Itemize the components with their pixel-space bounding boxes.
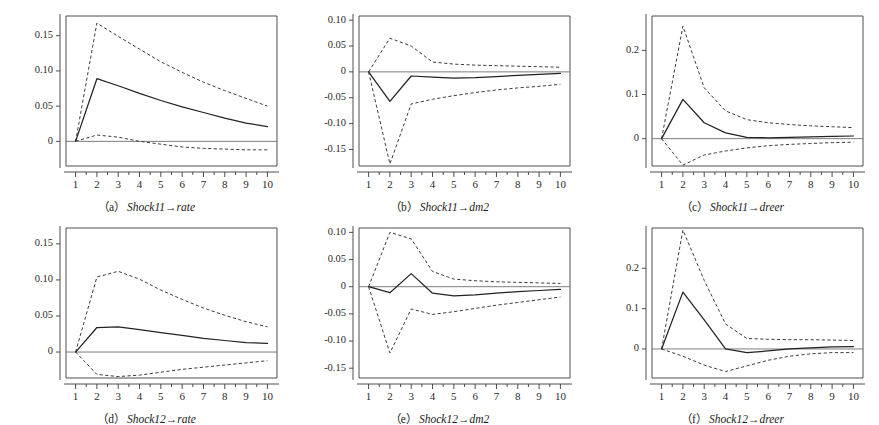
confidence-band-line	[76, 135, 268, 150]
y-axis-ticks: 00.10.2	[626, 44, 646, 143]
x-tick-label: 6	[765, 178, 771, 190]
y-axis-ticks: 00.050.100.15	[35, 29, 60, 146]
y-tick-label: -0.05	[324, 307, 346, 318]
x-axis-ticks: 12345678910	[366, 384, 567, 402]
y-tick-label: -0.10	[324, 117, 346, 128]
x-tick-label: 6	[179, 178, 185, 190]
y-tick-label: 0.10	[35, 273, 53, 284]
x-tick-label: 1	[366, 390, 372, 402]
confidence-band-line	[369, 232, 561, 286]
impulse-response-figure: 1234567891000.050.100.15（a）Shock11→rate1…	[0, 0, 879, 425]
x-tick-label: 4	[430, 390, 436, 402]
x-axis-ticks: 12345678910	[73, 172, 274, 190]
impulse-response-line	[369, 72, 561, 101]
x-tick-label: 2	[94, 390, 100, 402]
panel-caption-letter: （e）	[390, 413, 417, 425]
plot-frame	[359, 228, 570, 378]
x-tick-label: 6	[472, 178, 478, 190]
y-axis-ticks: -0.15-0.10-0.0500.050.10	[324, 14, 353, 154]
series-group	[662, 26, 854, 165]
panel-caption-text: Shock12→rate	[127, 413, 196, 425]
x-tick-label: 1	[366, 178, 372, 190]
y-tick-label: -0.15	[324, 362, 346, 373]
series-group	[369, 38, 561, 164]
x-tick-label: 3	[701, 178, 707, 190]
x-tick-label: 10	[262, 390, 274, 402]
x-tick-label: 4	[137, 390, 143, 402]
x-tick-label: 9	[243, 178, 249, 190]
x-tick-label: 7	[201, 390, 207, 402]
x-tick-label: 5	[158, 390, 164, 402]
impulse-response-line	[369, 274, 561, 296]
x-tick-label: 5	[744, 390, 750, 402]
y-tick-label: 0	[341, 65, 346, 76]
y-tick-label: 0.05	[328, 253, 346, 264]
x-tick-label: 8	[222, 178, 228, 190]
plot-frame	[66, 16, 277, 166]
y-tick-label: 0.2	[626, 262, 639, 273]
y-tick-label: 0.2	[626, 44, 639, 55]
confidence-band-line	[369, 287, 561, 353]
y-tick-label: 0	[634, 132, 639, 143]
panel-caption-letter: （f）	[681, 413, 707, 425]
x-tick-label: 1	[659, 178, 665, 190]
x-tick-label: 6	[472, 390, 478, 402]
x-tick-label: 2	[387, 178, 393, 190]
panel-caption-letter: （d）	[97, 413, 125, 425]
x-tick-label: 7	[201, 178, 207, 190]
y-tick-label: 0.15	[35, 237, 53, 248]
panel-caption: （d）Shock12→rate	[0, 410, 293, 425]
x-tick-label: 5	[451, 178, 457, 190]
x-tick-label: 7	[787, 178, 793, 190]
x-tick-label: 7	[787, 390, 793, 402]
panel-caption: （e）Shock12→dm2	[293, 410, 586, 425]
x-tick-label: 9	[829, 390, 835, 402]
y-tick-label: 0.05	[35, 100, 53, 111]
x-tick-label: 3	[408, 390, 414, 402]
x-tick-label: 9	[243, 390, 249, 402]
y-tick-label: 0.15	[35, 29, 53, 40]
x-tick-label: 8	[808, 390, 814, 402]
series-group	[369, 232, 561, 353]
chart-panel-d: 1234567891000.050.100.15（d）Shock12→rate	[0, 212, 293, 425]
confidence-band-line	[369, 72, 561, 164]
x-tick-label: 10	[555, 178, 567, 190]
series-group	[662, 230, 854, 372]
x-tick-label: 9	[536, 178, 542, 190]
y-tick-label: 0	[48, 135, 53, 146]
plot-frame	[652, 16, 863, 166]
x-axis-ticks: 12345678910	[73, 384, 274, 402]
confidence-band-line	[662, 230, 854, 349]
chart-panel-e: 12345678910-0.15-0.10-0.0500.050.10（e）Sh…	[293, 212, 586, 425]
confidence-band-line	[662, 26, 854, 138]
impulse-response-line	[76, 327, 268, 352]
x-tick-label: 2	[680, 178, 686, 190]
panel-caption-text: Shock12→dreer	[709, 413, 784, 425]
y-tick-label: -0.15	[324, 143, 346, 154]
series-group	[76, 271, 268, 376]
x-tick-label: 5	[158, 178, 164, 190]
y-axis-ticks: 00.050.100.15	[35, 237, 60, 356]
x-tick-label: 4	[723, 178, 729, 190]
y-axis-ticks: 00.10.2	[626, 262, 646, 354]
x-tick-label: 8	[515, 178, 521, 190]
chart-panel-b: 12345678910-0.15-0.10-0.0500.050.10（b）Sh…	[293, 0, 586, 212]
x-axis-ticks: 12345678910	[659, 384, 860, 402]
plot-frame	[66, 228, 277, 378]
confidence-band-line	[662, 139, 854, 165]
x-tick-label: 10	[848, 178, 860, 190]
x-tick-label: 3	[115, 178, 121, 190]
x-tick-label: 9	[829, 178, 835, 190]
x-tick-label: 1	[659, 390, 665, 402]
panel-caption-text: Shock12→dm2	[419, 413, 489, 425]
x-tick-label: 3	[115, 390, 121, 402]
confidence-band-line	[76, 352, 268, 377]
x-tick-label: 2	[387, 390, 393, 402]
x-tick-label: 1	[73, 390, 79, 402]
x-tick-label: 2	[94, 178, 100, 190]
impulse-response-line	[662, 99, 854, 138]
chart-panel-a: 1234567891000.050.100.15（a）Shock11→rate	[0, 0, 293, 212]
confidence-band-line	[76, 23, 268, 141]
y-tick-label: 0.10	[328, 14, 346, 25]
x-tick-label: 1	[73, 178, 79, 190]
